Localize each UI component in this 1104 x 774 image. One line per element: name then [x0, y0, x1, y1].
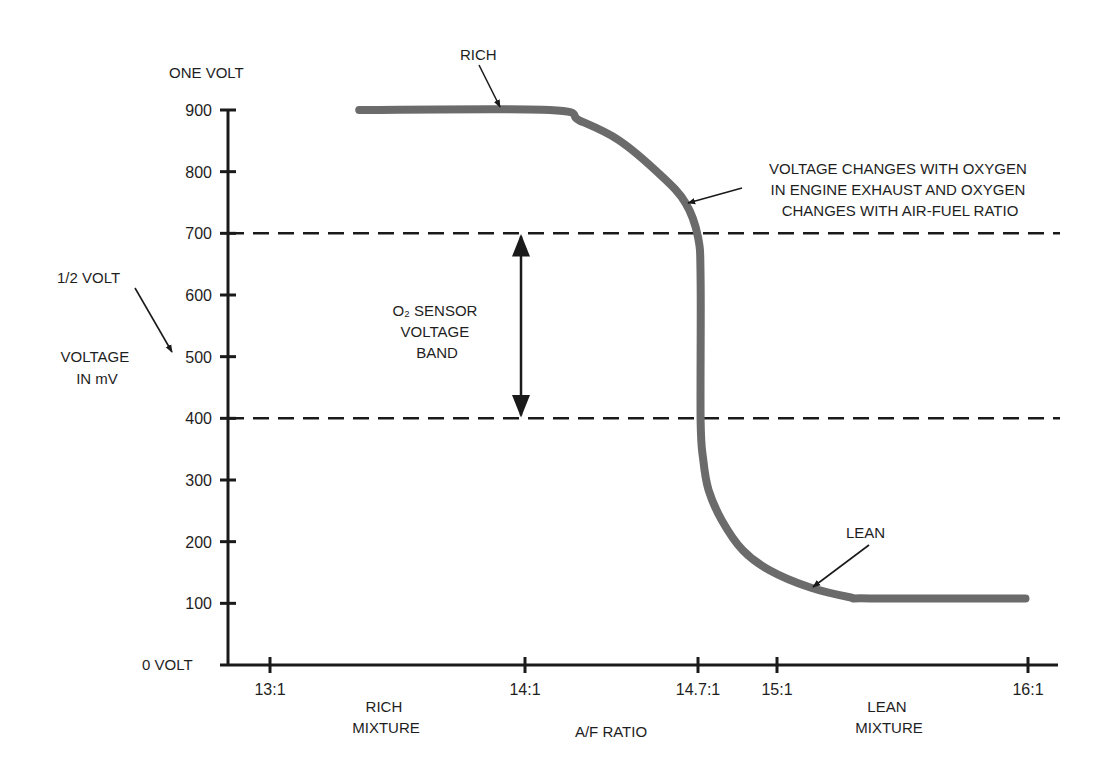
- x-tick-label: 16:1: [1012, 681, 1043, 698]
- x-axis-title: A/F RATIO: [575, 723, 647, 740]
- voltage-changes-line: IN ENGINE EXHAUST AND OXYGEN: [771, 181, 1026, 198]
- x-ticks: 13:114:114.7:115:116:1: [254, 657, 1043, 698]
- y-axis-top-label: ONE VOLT: [169, 64, 244, 81]
- y-tick-label: 700: [185, 225, 212, 242]
- rich-pointer-arrow: [479, 65, 500, 107]
- y-tick-label: 900: [185, 102, 212, 119]
- rich-mixture-line: RICH: [366, 698, 403, 715]
- y-tick-label: 100: [185, 595, 212, 612]
- voltage-band-label-line: VOLTAGE: [401, 323, 470, 340]
- rich-mixture-label: RICH MIXTURE: [352, 698, 420, 736]
- lean-mixture-line: MIXTURE: [855, 719, 923, 736]
- lean-pointer-arrow: [813, 545, 869, 587]
- y-axis-title-line: IN mV: [76, 370, 118, 387]
- voltage-changes-annotation: VOLTAGE CHANGES WITH OXYGEN IN ENGINE EX…: [769, 160, 1031, 219]
- lean-mixture-label: LEAN MIXTURE: [855, 698, 923, 736]
- half-volt-pointer-arrow: [135, 288, 172, 352]
- voltage-band-label-line: O₂ SENSOR: [392, 302, 477, 319]
- y-axis-zero-label: 0 VOLT: [142, 656, 193, 673]
- y-axis-title-line: VOLTAGE: [61, 348, 130, 365]
- y-tick-label: 800: [185, 164, 212, 181]
- voltage-changes-line: VOLTAGE CHANGES WITH OXYGEN: [769, 160, 1027, 177]
- x-tick-label: 15:1: [761, 681, 792, 698]
- x-tick-label: 14.7:1: [676, 681, 721, 698]
- half-volt-annotation: 1/2 VOLT: [57, 269, 120, 286]
- y-tick-label: 400: [185, 410, 212, 427]
- lean-annotation: LEAN: [846, 524, 885, 541]
- voltage-band-label: O₂ SENSOR VOLTAGE BAND: [392, 302, 481, 361]
- rich-annotation: RICH: [460, 46, 497, 63]
- voltage-changes-line: CHANGES WITH AIR-FUEL RATIO: [782, 202, 1019, 219]
- o2-sensor-voltage-chart: 100200300400500600700800900 13:114:114.7…: [0, 0, 1104, 774]
- x-tick-label: 13:1: [254, 681, 285, 698]
- y-tick-label: 200: [185, 534, 212, 551]
- voltage-changes-pointer-arrow: [688, 188, 742, 203]
- y-tick-label: 600: [185, 287, 212, 304]
- reference-lines: [228, 233, 1060, 418]
- y-tick-label: 300: [185, 472, 212, 489]
- x-tick-label: 14:1: [509, 681, 540, 698]
- lean-mixture-line: LEAN: [867, 698, 906, 715]
- y-tick-label: 500: [185, 349, 212, 366]
- rich-mixture-line: MIXTURE: [352, 719, 420, 736]
- voltage-band-label-line: BAND: [416, 344, 458, 361]
- y-axis-title: VOLTAGE IN mV: [61, 348, 134, 387]
